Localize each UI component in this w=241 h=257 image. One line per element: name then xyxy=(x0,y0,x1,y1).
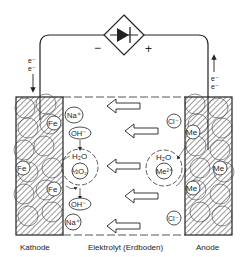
svg-text:Cl⁻: Cl⁻ xyxy=(168,215,179,222)
electron-flow-left: e⁻ e⁻ xyxy=(28,57,36,90)
svg-text:OH⁻: OH⁻ xyxy=(71,129,86,138)
svg-text:Fe: Fe xyxy=(48,185,58,194)
svg-text:Fe: Fe xyxy=(17,164,27,173)
svg-text:½O₂: ½O₂ xyxy=(72,167,87,176)
svg-text:H₂O: H₂O xyxy=(72,152,87,161)
svg-text:e⁻: e⁻ xyxy=(28,65,36,72)
svg-text:e⁻: e⁻ xyxy=(211,83,219,90)
svg-text:Me: Me xyxy=(186,128,198,137)
svg-text:OH⁻: OH⁻ xyxy=(71,200,86,209)
svg-text:e⁻: e⁻ xyxy=(28,57,36,64)
svg-text:e⁻: e⁻ xyxy=(211,75,219,82)
cathode-label: Kathode xyxy=(20,243,50,252)
svg-text:Na⁺: Na⁺ xyxy=(66,218,80,227)
cathode-ions: Na⁺ OH⁻ H₂O ½O₂ OH⁻ Na⁺ xyxy=(62,107,98,230)
plus-terminal-label: + xyxy=(145,42,152,56)
diode-rectifier-icon xyxy=(104,15,144,55)
svg-text:Fe: Fe xyxy=(48,119,58,128)
svg-text:Cl⁻: Cl⁻ xyxy=(168,118,179,125)
electron-flow-right: e⁻ e⁻ xyxy=(211,57,219,90)
anode-block xyxy=(185,94,234,235)
svg-text:Na⁺: Na⁺ xyxy=(67,111,81,120)
minus-terminal-label: − xyxy=(94,41,101,55)
svg-text:H₂O: H₂O xyxy=(156,153,171,162)
corrosion-protection-diagram: − + e⁻ e⁻ e⁻ e⁻ Fe Fe Fe xyxy=(0,0,241,257)
svg-text:Me: Me xyxy=(186,184,198,193)
current-flow-arrows xyxy=(107,99,158,233)
svg-text:Me²⁺: Me²⁺ xyxy=(156,167,173,176)
anode-label: Anode xyxy=(196,243,220,252)
svg-text:Me: Me xyxy=(213,164,225,173)
diagram-canvas: − + e⁻ e⁻ e⁻ e⁻ Fe Fe Fe xyxy=(0,0,241,257)
electrolyte-label: Elektrolyt (Erdboden) xyxy=(88,243,163,252)
